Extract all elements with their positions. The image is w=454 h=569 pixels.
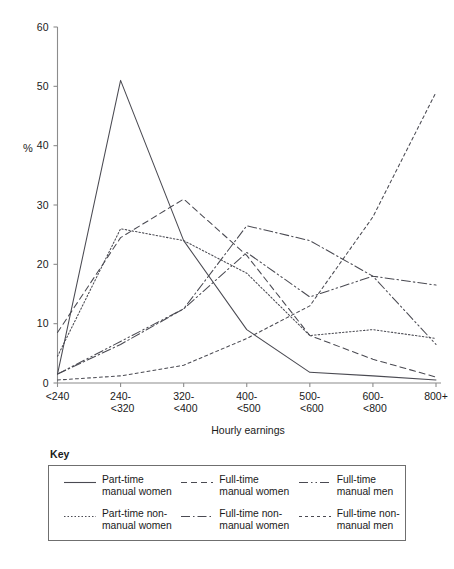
axes-group (58, 27, 442, 383)
x-tick-label-group: <240240-<320320-<400400-<500500-<600600-… (46, 390, 448, 414)
series-group (58, 80, 437, 380)
legend: Key Part-time manual women Full-time man… (48, 448, 408, 541)
line-chart-svg: 0102030405060 <240240-<320320-<400400-<5… (0, 0, 454, 445)
x-tick-label: <240 (46, 390, 70, 402)
legend-label: Full-time non- manual men (337, 508, 400, 533)
series-line-2 (58, 252, 437, 374)
y-tick-label-group: 0102030405060 (37, 21, 49, 389)
legend-line-icon (180, 476, 214, 489)
x-axis-label: Hourly earnings (211, 424, 285, 436)
x-tick-label: 500- (299, 390, 321, 402)
x-tick-label-secondary: <600 (300, 402, 324, 414)
legend-box: Part-time manual women Full-time manual … (48, 465, 406, 541)
series-line-0 (58, 80, 437, 380)
legend-item-part-time-manual-women[interactable]: Part-time manual women (49, 474, 178, 506)
legend-label: Full-time non- manual women (219, 508, 289, 533)
x-tick-label-secondary: <800 (363, 402, 387, 414)
legend-label: Part-time manual women (102, 474, 172, 499)
legend-item-full-time-manual-men[interactable]: Full-time manual men (296, 474, 405, 506)
legend-label: Part-time non- manual women (102, 508, 172, 533)
y-tick-group (54, 27, 58, 383)
x-tick-label: 240- (110, 390, 132, 402)
legend-line-icon (63, 510, 97, 523)
y-tick-label: 20 (37, 258, 49, 270)
legend-row-2: Part-time non- manual women Full-time no… (49, 508, 405, 540)
legend-item-part-time-non-manual-women[interactable]: Part-time non- manual women (49, 508, 178, 540)
figure-root: 0102030405060 <240240-<320320-<400400-<5… (0, 0, 454, 569)
legend-row-1: Part-time manual women Full-time manual … (49, 474, 405, 506)
x-tick-label: 400- (236, 390, 258, 402)
y-tick-label: 0 (43, 377, 49, 389)
x-tick-label-secondary: <500 (237, 402, 261, 414)
legend-item-full-time-non-manual-women[interactable]: Full-time non- manual women (178, 508, 295, 540)
legend-item-full-time-manual-women[interactable]: Full-time manual women (178, 474, 295, 506)
legend-line-icon (63, 476, 97, 489)
y-tick-label: 40 (37, 139, 49, 151)
legend-line-icon (298, 476, 332, 489)
x-tick-label-secondary: <400 (174, 402, 198, 414)
series-line-1 (58, 199, 437, 377)
legend-label: Full-time manual men (337, 474, 394, 499)
y-tick-label: 50 (37, 80, 49, 92)
legend-line-icon (298, 510, 332, 523)
y-tick-label: 30 (37, 199, 49, 211)
y-tick-label: 10 (37, 317, 49, 329)
y-tick-label: 60 (37, 21, 49, 33)
chart-plot-area: 0102030405060 <240240-<320320-<400400-<5… (0, 0, 454, 445)
x-tick-label: 800+ (424, 390, 448, 402)
legend-line-icon (180, 510, 214, 523)
legend-item-full-time-non-manual-men[interactable]: Full-time non- manual men (296, 508, 405, 540)
x-tick-label: 320- (173, 390, 195, 402)
x-tick-label: 600- (362, 390, 384, 402)
x-tick-label-secondary: <320 (111, 402, 135, 414)
legend-label: Full-time manual women (219, 474, 289, 499)
series-line-5 (58, 92, 437, 380)
x-tick-group (58, 383, 437, 387)
legend-title: Key (50, 448, 408, 460)
y-axis-label: % (23, 142, 33, 154)
